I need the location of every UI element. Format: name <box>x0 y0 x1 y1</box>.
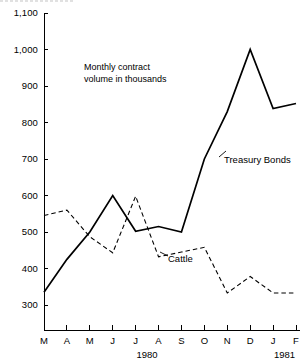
x-axis-tick-label: O <box>196 336 212 346</box>
series-line-cattle <box>44 196 296 293</box>
axes <box>44 13 300 330</box>
x-axis-period-label: 1981 <box>263 350 307 360</box>
x-axis-tick-label: J <box>128 336 144 346</box>
y-axis-tick-label: 1,000 <box>0 45 38 55</box>
chart-container: 1,1001,000900800700600500400300 MAMJJASO… <box>0 0 307 364</box>
x-axis-tick-label: D <box>242 336 258 346</box>
x-axis-tick-label: N <box>219 336 235 346</box>
y-axis-tick-label: 300 <box>0 300 38 310</box>
x-axis-tick-label: A <box>59 336 75 346</box>
x-axis-tick-label: M <box>36 336 52 346</box>
y-axis-tick-label: 800 <box>0 118 38 128</box>
chart-annotation-note: Monthly contract volume in thousands <box>84 62 167 85</box>
y-axis-tick-label: 600 <box>0 191 38 201</box>
y-axis-tick-label: 400 <box>0 264 38 274</box>
series-label-treasury-bonds: Treasury Bonds <box>224 155 291 165</box>
x-axis-tick-label: J <box>265 336 281 346</box>
y-axis-tick-label: 900 <box>0 81 38 91</box>
y-axis-tick-label: 700 <box>0 154 38 164</box>
x-axis-tick-label: F <box>288 336 304 346</box>
x-axis-period-label: 1980 <box>125 350 169 360</box>
x-axis-tick-label: M <box>82 336 98 346</box>
y-axis-tick-label: 1,100 <box>0 8 38 18</box>
y-axis-tick-label: 500 <box>0 227 38 237</box>
x-axis-tick-label: A <box>151 336 167 346</box>
series-label-cattle: Cattle <box>168 254 193 264</box>
x-axis-tick-label: J <box>105 336 121 346</box>
chart-plot-area <box>0 0 307 364</box>
x-axis-tick-label: S <box>173 336 189 346</box>
